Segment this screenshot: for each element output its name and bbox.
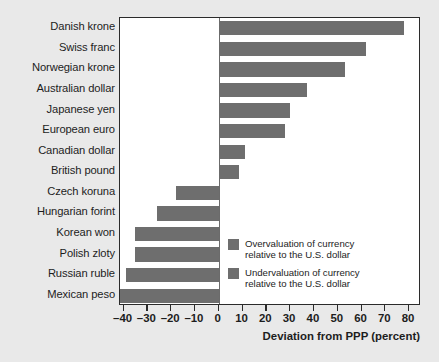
category-label: Danish krone <box>0 20 115 32</box>
category-label: Canadian dollar <box>0 144 115 156</box>
legend-swatch-overvaluation <box>228 239 239 250</box>
legend-swatch-undervaluation <box>228 268 239 279</box>
category-label: British pound <box>0 164 115 176</box>
legend-label-undervaluation-line2: relative to the U.S. dollar <box>245 278 360 289</box>
x-tick <box>146 305 147 311</box>
chart-figure: Danish kroneSwiss francNorwegian kroneAu… <box>0 0 439 362</box>
bar <box>219 145 245 159</box>
bar <box>120 289 219 303</box>
bar <box>126 268 219 282</box>
category-label: Japanese yen <box>0 103 115 115</box>
category-label: Australian dollar <box>0 82 115 94</box>
bar <box>219 83 307 97</box>
legend-item-undervaluation: Undervaluation of currency relative to t… <box>228 267 408 290</box>
bar-row <box>120 124 419 138</box>
x-tick <box>194 305 195 311</box>
bar-row <box>120 103 419 117</box>
bar <box>219 124 286 138</box>
category-label: Mexican peso <box>0 288 115 300</box>
category-label: Russian ruble <box>0 267 115 279</box>
x-tick <box>123 305 124 311</box>
bar <box>219 21 405 35</box>
category-axis-labels: Danish kroneSwiss francNorwegian kroneAu… <box>0 17 115 305</box>
x-tick <box>361 305 362 311</box>
bar-row <box>120 83 419 97</box>
bar <box>135 227 218 241</box>
bar <box>157 206 219 220</box>
bar-row <box>120 145 419 159</box>
category-label: European euro <box>0 123 115 135</box>
bar-row <box>120 186 419 200</box>
bar-row <box>120 206 419 220</box>
bar-row <box>120 21 419 35</box>
x-tick <box>313 305 314 311</box>
x-tick <box>289 305 290 311</box>
bar-row <box>120 42 419 56</box>
x-tick-label: 10 <box>235 312 248 324</box>
category-label: Hungarian forint <box>0 205 115 217</box>
x-axis-title: Deviation from PPP (percent) <box>0 330 439 342</box>
x-tick <box>384 305 385 311</box>
x-tick-label: 0 <box>215 312 221 324</box>
x-tick-label: –40 <box>113 312 132 324</box>
legend-label-overvaluation: Overvaluation of currency relative to th… <box>245 238 354 261</box>
legend-label-overvaluation-line2: relative to the U.S. dollar <box>245 249 354 260</box>
bar <box>219 103 290 117</box>
x-tick <box>408 305 409 311</box>
x-tick-label: 50 <box>330 312 343 324</box>
category-label: Polish zloty <box>0 247 115 259</box>
category-label: Norwegian krone <box>0 61 115 73</box>
bar-row <box>120 165 419 179</box>
chart-legend: Overvaluation of currency relative to th… <box>228 238 408 296</box>
legend-label-undervaluation: Undervaluation of currency relative to t… <box>245 267 360 290</box>
x-tick-label: 40 <box>307 312 320 324</box>
x-tick-label: 80 <box>402 312 415 324</box>
x-tick-label: 60 <box>354 312 367 324</box>
bar <box>219 42 367 56</box>
bar <box>219 165 239 179</box>
bar <box>135 247 218 261</box>
zero-reference-line <box>219 18 220 304</box>
bar-row <box>120 62 419 76</box>
category-label: Swiss franc <box>0 41 115 53</box>
x-tick-label: 70 <box>378 312 391 324</box>
x-tick-label: 30 <box>283 312 296 324</box>
x-tick <box>242 305 243 311</box>
x-tick-label: 20 <box>259 312 272 324</box>
bar <box>176 186 219 200</box>
x-tick-label: –20 <box>161 312 180 324</box>
x-tick-label: –10 <box>184 312 203 324</box>
x-tick <box>337 305 338 311</box>
category-label: Korean won <box>0 226 115 238</box>
x-tick <box>265 305 266 311</box>
x-tick-label: –30 <box>137 312 156 324</box>
category-label: Czech koruna <box>0 185 115 197</box>
x-tick <box>170 305 171 311</box>
legend-label-overvaluation-line1: Overvaluation of currency <box>245 238 354 249</box>
x-tick <box>218 305 219 311</box>
bar <box>219 62 345 76</box>
legend-item-overvaluation: Overvaluation of currency relative to th… <box>228 238 408 261</box>
legend-label-undervaluation-line1: Undervaluation of currency <box>245 267 360 278</box>
